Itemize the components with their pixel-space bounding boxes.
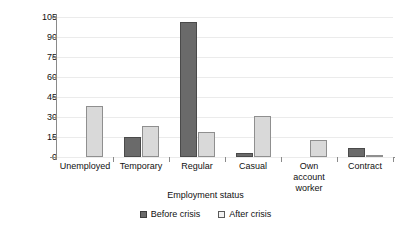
x-tick-mark [113,157,114,162]
plot-area [57,17,393,157]
bar-after-crisis [86,106,103,157]
bar-before-crisis [124,137,141,157]
x-axis-title: Employment status [0,190,411,200]
bar-after-crisis [198,132,215,157]
legend-item-before-crisis: Before crisis [140,209,201,219]
chart-figure: Number of workers 0153045607590105 Emplo… [0,0,411,240]
bar-group [169,17,225,157]
x-tick-mark [337,157,338,162]
bar-after-crisis [366,155,383,157]
bar-after-crisis [310,140,327,157]
legend-label-after-crisis: After crisis [229,209,271,219]
bar-before-crisis [348,148,365,157]
chart-legend: Before crisis After crisis [0,209,411,219]
x-tick-mark [281,157,282,162]
x-tick-mark [225,157,226,162]
y-axis-ticks: 0153045607590105 [0,0,57,240]
bar-group [57,17,113,157]
legend-swatch-before-crisis [140,211,147,218]
x-tick-label: Contract [331,161,399,172]
bar-group [113,17,169,157]
bar-group [337,17,393,157]
bar-after-crisis [142,126,159,157]
x-tick-mark [393,157,394,162]
x-tick-mark [169,157,170,162]
bar-after-crisis [254,116,271,157]
legend-swatch-after-crisis [218,211,225,218]
bar-before-crisis [180,22,197,157]
legend-label-before-crisis: Before crisis [151,209,201,219]
bar-group [225,17,281,157]
legend-item-after-crisis: After crisis [218,209,271,219]
bar-group [281,17,337,157]
bar-before-crisis [236,153,253,157]
